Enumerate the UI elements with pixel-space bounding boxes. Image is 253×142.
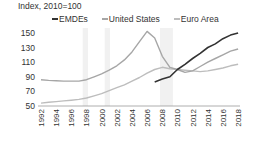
x-tick-label: 2016	[219, 108, 228, 126]
legend-swatch	[52, 18, 58, 20]
legend-swatch	[102, 18, 108, 20]
y-tick-label: 50	[26, 101, 36, 111]
series-lines	[41, 31, 238, 103]
x-tick-label: 2004	[128, 108, 137, 126]
shaded-periods	[83, 28, 173, 106]
legend: EMDEsUnited StatesEuro Area	[52, 14, 219, 24]
x-tick-label: 2006	[143, 108, 152, 126]
series-line-euro-area	[41, 64, 238, 103]
x-tick-label: 1998	[82, 108, 91, 126]
x-tick-label: 1992	[37, 108, 46, 126]
y-axis: 507090110130150	[21, 28, 35, 111]
y-tick-label: 110	[21, 57, 35, 67]
y-tick-label: 130	[21, 43, 35, 53]
legend-item-emdes: EMDEs	[52, 14, 88, 24]
x-tick-label: 2008	[158, 108, 167, 126]
legend-item-euro-area: Euro Area	[174, 14, 219, 24]
x-tick-label: 1996	[67, 108, 76, 126]
x-axis: 1992199419961998200020022004200620082010…	[37, 108, 243, 126]
x-tick-label: 2018	[234, 108, 243, 126]
x-tick-label: 2014	[204, 108, 213, 126]
legend-label: Euro Area	[181, 14, 219, 24]
y-axis-title: Index, 2010=100	[18, 1, 82, 11]
legend-label: United States	[109, 14, 160, 24]
x-tick-label: 1994	[52, 108, 61, 126]
y-tick-label: 90	[26, 72, 36, 82]
x-tick-label: 2010	[173, 108, 182, 126]
shaded-band	[105, 28, 110, 106]
shaded-band	[83, 28, 88, 106]
x-tick-label: 2002	[113, 108, 122, 126]
legend-label: EMDEs	[59, 14, 88, 24]
y-tick-label: 70	[26, 86, 36, 96]
legend-swatch	[174, 18, 180, 20]
legend-item-united-states: United States	[102, 14, 160, 24]
series-line-united-states	[41, 31, 238, 81]
x-tick-label: 2012	[189, 108, 198, 126]
y-tick-label: 150	[21, 28, 35, 38]
x-tick-label: 2000	[98, 108, 107, 126]
